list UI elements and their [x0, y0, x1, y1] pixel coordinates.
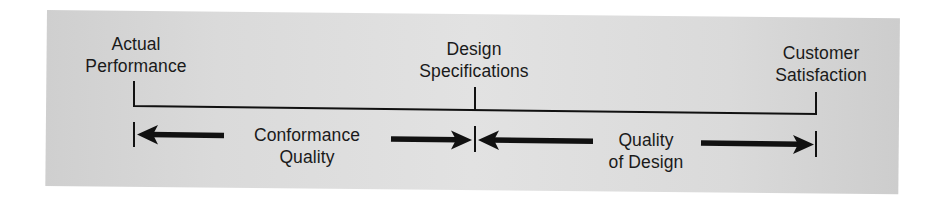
label-line: Quality [596, 129, 696, 151]
label-actual-performance: Actual Performance [74, 33, 198, 77]
timeline-baseline [134, 81, 816, 114]
label-conformance-quality: Conformance Quality [232, 124, 382, 168]
label-design-specifications: Design Specifications [404, 38, 544, 82]
arrow-left-icon [137, 125, 224, 145]
label-line: of Design [596, 151, 696, 173]
label-customer-satisfaction: Customer Satisfaction [756, 42, 886, 86]
label-line: Conformance [232, 124, 382, 146]
label-line: Design [404, 38, 544, 60]
quality-continuum-diagram [0, 0, 943, 199]
arrow-left-icon [478, 131, 593, 151]
label-line: Satisfaction [756, 64, 886, 86]
label-line: Specifications [404, 60, 544, 82]
arrow-right-icon [701, 135, 814, 154]
label-line: Customer [756, 42, 886, 64]
label-line: Quality [232, 146, 382, 168]
arrow-right-icon [391, 131, 472, 150]
label-quality-of-design: Quality of Design [596, 129, 696, 173]
label-line: Performance [74, 55, 198, 77]
label-line: Actual [74, 33, 198, 55]
